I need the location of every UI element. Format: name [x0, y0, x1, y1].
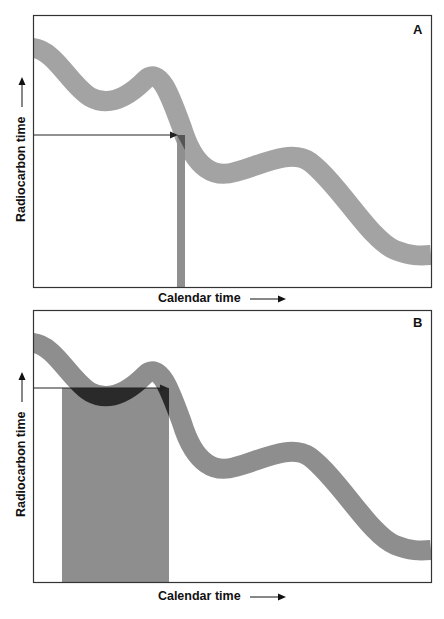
panel-a-plot: [0, 0, 444, 305]
panel-b-x-axis-label: Calendar time: [0, 589, 444, 603]
calendar-range-band: [177, 135, 185, 287]
panel-b-plot: [0, 295, 444, 619]
calibration-curve-band: [33, 48, 431, 255]
panel-a-frame: [34, 16, 432, 288]
panel-b: B Radiocarbon time Calendar time: [0, 295, 444, 619]
panel-b-letter: B: [413, 315, 422, 330]
panel-a-y-axis-label: Radiocarbon time: [14, 77, 28, 222]
arrow-right-icon: [250, 592, 286, 602]
panel-b-y-axis-label: Radiocarbon time: [14, 372, 28, 517]
arrow-up-icon: [17, 77, 27, 107]
arrow-up-icon: [17, 372, 27, 402]
y-axis-label-text: Radiocarbon time: [14, 116, 28, 222]
panel-a-letter: A: [413, 22, 422, 37]
calendar-range-band: [62, 388, 169, 582]
y-axis-label-text: Radiocarbon time: [14, 411, 28, 517]
panel-a: A Radiocarbon time Calendar time: [0, 0, 444, 305]
x-axis-label-text: Calendar time: [158, 589, 241, 603]
